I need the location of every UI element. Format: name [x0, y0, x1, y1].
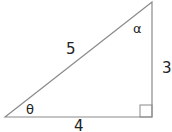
vertical-side-label: 3 — [162, 59, 172, 77]
triangle — [5, 2, 152, 117]
base-label: 4 — [74, 117, 84, 132]
angle-theta-label: θ — [26, 102, 34, 117]
angle-alpha-label: α — [133, 21, 142, 36]
triangle-diagram: 5 3 4 θ α — [0, 0, 172, 132]
right-angle-marker — [140, 105, 152, 117]
hypotenuse-label: 5 — [66, 40, 76, 58]
